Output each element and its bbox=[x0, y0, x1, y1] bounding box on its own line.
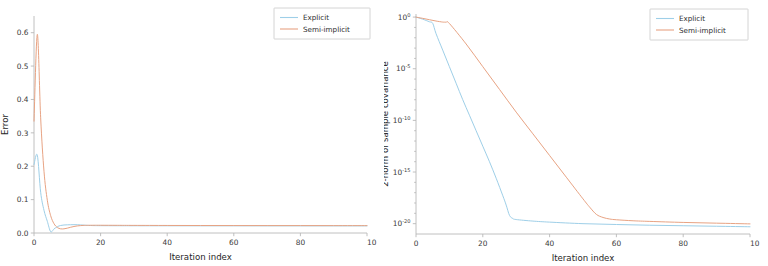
series-line-semi-implicit bbox=[34, 34, 367, 229]
y-tick-label: 10-15 bbox=[393, 167, 411, 177]
y-tick-label: 10-5 bbox=[396, 63, 411, 73]
series-line-explicit bbox=[34, 154, 367, 232]
y-tick-label: 0.1 bbox=[17, 195, 29, 204]
series-line-explicit bbox=[416, 17, 750, 227]
y-tick-label: 0.0 bbox=[17, 229, 29, 238]
x-tick-label: 10 bbox=[367, 238, 377, 247]
chart-panel-error: 020406080100.00.10.20.30.40.50.6Iteratio… bbox=[0, 0, 384, 266]
axis-spines bbox=[34, 16, 367, 233]
x-axis-title: Iteration index bbox=[552, 253, 615, 263]
x-tick-label: 40 bbox=[545, 239, 555, 248]
y-tick-label: 0.3 bbox=[17, 129, 29, 138]
figure-container: 020406080100.00.10.20.30.40.50.6Iteratio… bbox=[0, 0, 768, 266]
series-line-semi-implicit bbox=[416, 17, 750, 224]
error-plot-svg: 020406080100.00.10.20.30.40.50.6Iteratio… bbox=[0, 0, 384, 266]
legend[interactable]: ExplicitSemi-implicit bbox=[650, 9, 748, 40]
y-tick-label: 100 bbox=[398, 12, 411, 22]
chart-panel-covariance: 0204060801010010-510-1010-1510-20Iterati… bbox=[384, 0, 768, 266]
legend-label-semi-implicit: Semi-implicit bbox=[679, 26, 726, 35]
x-tick-label: 40 bbox=[162, 238, 172, 247]
y-tick-label: 10-10 bbox=[393, 115, 411, 125]
y-tick-label: 0.6 bbox=[17, 28, 29, 37]
covariance-plot-svg: 0204060801010010-510-1010-1510-20Iterati… bbox=[384, 0, 768, 266]
y-tick-label: 0.4 bbox=[17, 95, 29, 104]
x-tick-label: 80 bbox=[678, 239, 688, 248]
x-tick-label: 80 bbox=[296, 238, 306, 247]
x-tick-label: 60 bbox=[229, 238, 239, 247]
x-tick-label: 0 bbox=[414, 239, 419, 248]
legend[interactable]: ExplicitSemi-implicit bbox=[274, 8, 370, 39]
y-tick-label: 10-20 bbox=[393, 218, 411, 228]
x-tick-label: 20 bbox=[478, 239, 488, 248]
x-axis-title: Iteration index bbox=[169, 252, 232, 262]
legend-label-semi-implicit: Semi-implicit bbox=[303, 25, 350, 34]
legend-label-explicit: Explicit bbox=[303, 13, 329, 22]
x-tick-label: 10 bbox=[750, 239, 760, 248]
y-axis-title: 2-norm of sample covariance bbox=[384, 61, 390, 187]
y-axis-title: Error bbox=[0, 114, 10, 135]
x-tick-label: 20 bbox=[96, 238, 106, 247]
legend-label-explicit: Explicit bbox=[679, 14, 705, 23]
y-tick-label: 0.5 bbox=[17, 62, 29, 71]
x-tick-label: 0 bbox=[32, 238, 37, 247]
y-tick-label: 0.2 bbox=[17, 162, 29, 171]
axis-spines bbox=[416, 14, 750, 234]
x-tick-label: 60 bbox=[612, 239, 622, 248]
